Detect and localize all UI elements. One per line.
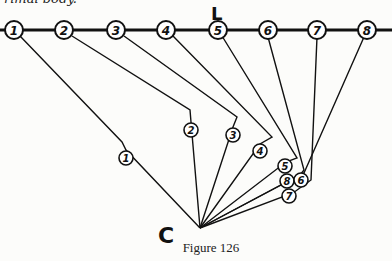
- lower-point-1: 1: [119, 151, 133, 165]
- top-point-4: 4: [157, 21, 175, 39]
- svg-text:1: 1: [123, 153, 130, 164]
- lower-point-6: 6: [294, 173, 308, 187]
- svg-text:2: 2: [188, 125, 195, 136]
- svg-text:8: 8: [284, 176, 291, 187]
- svg-text:3: 3: [230, 130, 237, 141]
- line-label: L: [211, 3, 222, 24]
- svg-text:7: 7: [313, 24, 322, 38]
- svg-text:4: 4: [256, 146, 264, 157]
- lower-point-5: 5: [278, 159, 292, 173]
- svg-text:7: 7: [286, 191, 293, 202]
- svg-text:5: 5: [214, 24, 222, 38]
- top-point-7: 7: [308, 21, 326, 39]
- lower-point-3: 3: [226, 128, 240, 142]
- lower-point-7: 7: [282, 189, 296, 203]
- top-point-8: 8: [358, 21, 376, 39]
- lower-point-4: 4: [253, 144, 267, 158]
- ray-diagram: 1 2 3 4 5 6 7 8 1 2 3 4 5 8 6 7 L C: [0, 0, 392, 261]
- lower-point-2: 2: [184, 123, 198, 137]
- svg-text:1: 1: [10, 24, 18, 38]
- svg-text:6: 6: [298, 175, 305, 186]
- svg-text:2: 2: [60, 24, 68, 38]
- svg-text:4: 4: [161, 24, 170, 38]
- lower-point-8: 8: [280, 174, 294, 188]
- top-point-1: 1: [5, 21, 23, 39]
- top-point-2: 2: [55, 21, 73, 39]
- lower-circles: 1 2 3 4 5 8 6 7: [119, 123, 308, 203]
- top-point-3: 3: [107, 21, 125, 39]
- figure-caption: Figure 126: [0, 240, 392, 256]
- svg-text:3: 3: [112, 24, 120, 38]
- svg-text:6: 6: [264, 24, 272, 38]
- top-point-6: 6: [259, 21, 277, 39]
- svg-text:8: 8: [363, 24, 371, 38]
- svg-text:5: 5: [282, 161, 289, 172]
